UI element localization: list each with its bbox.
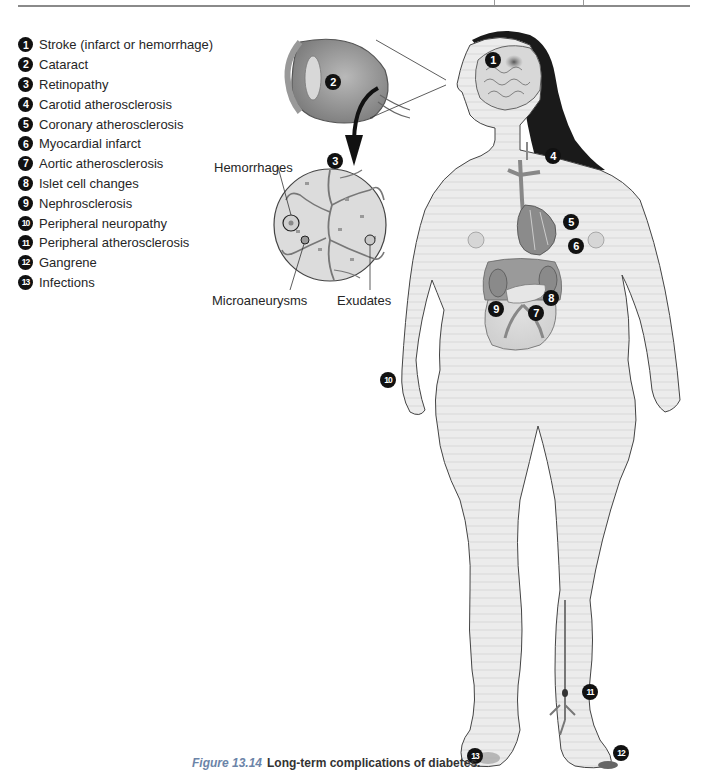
marker-gangrene: 12 (613, 745, 629, 761)
anatomy-illustration (0, 0, 704, 778)
marker-neuropathy: 10 (380, 372, 396, 388)
retina-diagram (274, 167, 386, 290)
lens (305, 56, 321, 100)
marker-islet: 8 (543, 290, 559, 306)
marker-nephro: 9 (488, 301, 504, 317)
figure-title: Long-term complications of diabetes. (267, 756, 480, 770)
left-kidney (489, 269, 507, 297)
exudate-circle (365, 235, 375, 245)
marker-myocardial: 6 (568, 238, 584, 254)
gangrene-toes (598, 761, 618, 769)
marker-carotid: 4 (545, 148, 561, 164)
exudates-label: Exudates (337, 293, 391, 308)
arrow-head-icon (345, 135, 363, 166)
marker-stroke: 1 (485, 52, 501, 68)
eyeball-diagram (288, 39, 447, 166)
microaneurysms-label: Microaneurysms (212, 293, 307, 308)
human-body-figure (402, 31, 680, 769)
figure-number: Figure 13.14 (192, 756, 262, 770)
marker-peripheral: 11 (582, 684, 598, 700)
marker-coronary: 5 (563, 214, 579, 230)
marker-aortic: 7 (528, 305, 544, 321)
figure-caption: Figure 13.14Long-term complications of d… (192, 756, 480, 770)
microaneurysm-circle (301, 236, 309, 244)
marker-cataract: 2 (325, 74, 341, 90)
stroke-lesion (505, 55, 523, 69)
hemorrhages-label: Hemorrhages (214, 160, 293, 175)
marker-retinopathy: 3 (327, 153, 343, 169)
